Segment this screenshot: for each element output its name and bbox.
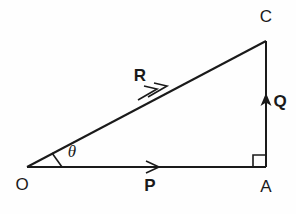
- point-label-a: A: [260, 177, 272, 196]
- vector-diagram-figure: O A C P Q R θ: [0, 0, 296, 214]
- vector-diagram-svg: O A C P Q R θ: [0, 0, 296, 214]
- vector-label-r: R: [134, 66, 146, 85]
- angle-theta-marker: [52, 153, 62, 167]
- vector-label-q: Q: [273, 92, 286, 111]
- point-label-o: O: [15, 175, 28, 194]
- angle-label-theta: θ: [68, 142, 76, 161]
- point-label-c: C: [260, 7, 272, 26]
- right-angle-marker-icon: [253, 155, 265, 167]
- vector-r-line: [27, 41, 266, 167]
- vector-label-p: P: [144, 176, 155, 195]
